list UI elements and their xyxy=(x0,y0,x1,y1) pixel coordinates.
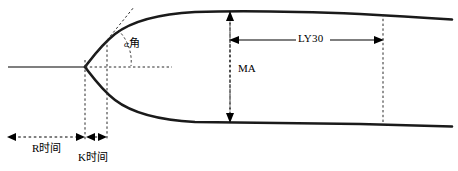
teg-tracing-canvas xyxy=(0,0,458,171)
lower-envelope-path xyxy=(85,67,452,127)
ma-label: MA xyxy=(238,63,256,74)
alpha-angle-word: 角 xyxy=(129,37,140,49)
k-time-label: K时间 xyxy=(78,152,108,163)
r-time-arrowhead-right xyxy=(76,133,85,141)
alpha-angle-label: α角 xyxy=(124,38,140,49)
k-time-arrowhead-left xyxy=(86,133,95,141)
teg-diagram: R时间 K时间 α角 MA LY30 xyxy=(0,0,458,171)
r-time-arrowhead-left xyxy=(7,133,16,141)
k-time-arrowhead-right xyxy=(98,133,107,141)
upper-envelope-path xyxy=(85,11,452,67)
ly30-label: LY30 xyxy=(298,33,323,44)
alpha-tangent-line xyxy=(86,7,134,66)
r-time-label: R时间 xyxy=(32,143,61,154)
